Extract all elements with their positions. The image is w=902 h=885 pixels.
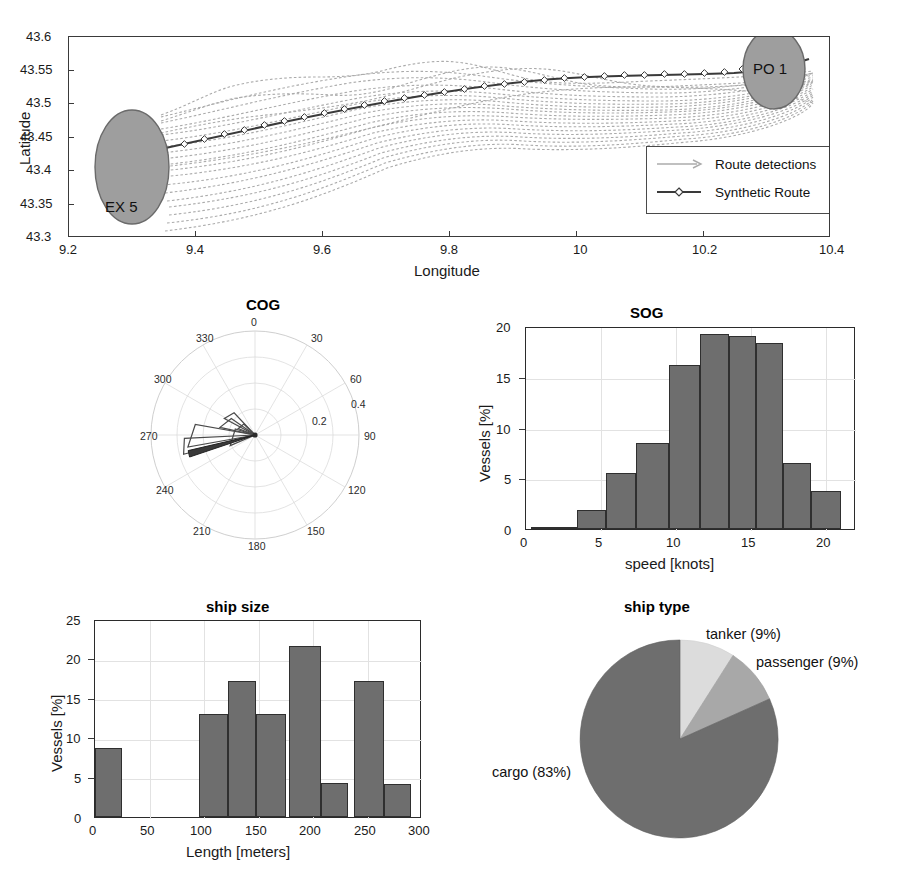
map-ytickmark bbox=[68, 103, 74, 104]
map-ytick-43.3: 43.3 bbox=[26, 229, 51, 244]
size-xtick-200: 200 bbox=[299, 823, 321, 838]
map-ytick-43.6: 43.6 bbox=[26, 29, 51, 44]
sog-ytick-15: 15 bbox=[496, 371, 510, 386]
sog-bar bbox=[606, 473, 636, 529]
cog-angle-tick-30: 30 bbox=[311, 332, 323, 344]
size-ytick-15: 15 bbox=[66, 692, 80, 707]
sog-ytickmark bbox=[519, 429, 525, 430]
cog-angle-tick-180: 180 bbox=[248, 540, 266, 552]
sog-xtick-10: 10 bbox=[666, 535, 680, 550]
map-yaxis-title: Latitude bbox=[16, 112, 33, 165]
map-ytickmark bbox=[68, 70, 74, 71]
size-gridline bbox=[150, 621, 151, 819]
cog-angle-tick-60: 60 bbox=[350, 373, 362, 385]
size-bar bbox=[289, 646, 321, 817]
map-ytick-43.35: 43.35 bbox=[20, 196, 53, 211]
map-xtick-9.2: 9.2 bbox=[59, 242, 77, 257]
cog-angle-tick-210: 210 bbox=[193, 525, 211, 537]
zone-label-ex5: EX 5 bbox=[105, 198, 138, 215]
size-xaxis-title: Length [meters] bbox=[186, 843, 290, 860]
sog-bar bbox=[636, 443, 669, 529]
map-ytick-43.5: 43.5 bbox=[26, 95, 51, 110]
sog-xtick-20: 20 bbox=[816, 535, 830, 550]
cog-radial-tick-0.2: 0.2 bbox=[312, 415, 327, 427]
map-xtick-10.4: 10.4 bbox=[819, 242, 844, 257]
cog-angle-tick-330: 330 bbox=[196, 332, 214, 344]
size-yaxis-title: Vessels [%] bbox=[48, 694, 65, 772]
size-xtick-100: 100 bbox=[190, 823, 212, 838]
zone-label-po1: PO 1 bbox=[753, 60, 787, 77]
size-bar bbox=[354, 681, 383, 817]
map-xtick-10.2: 10.2 bbox=[692, 242, 717, 257]
sog-bar bbox=[700, 334, 729, 529]
cog-rose-petals bbox=[184, 413, 255, 455]
pie-label-passenger: passenger (9%) bbox=[756, 654, 858, 670]
map-ytick-43.55: 43.55 bbox=[20, 62, 53, 77]
cog-angle-tick-90: 90 bbox=[364, 430, 376, 442]
sog-ytickmark bbox=[519, 378, 525, 379]
sog-xtick-15: 15 bbox=[741, 535, 755, 550]
cog-polar-panel: COG 0 30 bbox=[140, 292, 450, 582]
sog-histogram-panel: SOG 20 15 10 5 0 0 5 10 15 20 speed [kno… bbox=[440, 292, 870, 582]
cog-rose-dominant-petal bbox=[188, 435, 255, 457]
ship-type-pie-svg bbox=[460, 612, 902, 882]
map-xtickmark bbox=[322, 231, 323, 237]
sog-axes bbox=[525, 327, 855, 530]
synthetic-route-swatch-icon bbox=[655, 183, 707, 201]
cog-polar-origin bbox=[252, 432, 257, 437]
map-xtick-9.8: 9.8 bbox=[440, 242, 458, 257]
sog-bar bbox=[756, 343, 783, 529]
cog-angle-tick-270: 270 bbox=[140, 430, 158, 442]
cog-radial-tick-0.4: 0.4 bbox=[351, 398, 366, 410]
map-xtick-9.4: 9.4 bbox=[186, 242, 204, 257]
sog-ytick-5: 5 bbox=[504, 472, 511, 487]
map-xtickmark bbox=[703, 231, 704, 237]
sog-bar bbox=[531, 527, 578, 529]
sog-bar bbox=[669, 365, 701, 529]
cog-angle-tick-120: 120 bbox=[348, 484, 366, 496]
pie-label-tanker: tanker (9%) bbox=[706, 626, 781, 642]
size-xtick-300: 300 bbox=[408, 823, 430, 838]
legend-label-synthetic-route: Synthetic Route bbox=[715, 185, 810, 200]
cog-polar-svg bbox=[140, 306, 450, 586]
size-axes bbox=[94, 620, 421, 818]
sog-ytick-0: 0 bbox=[504, 523, 511, 538]
map-xtickmark bbox=[449, 231, 450, 237]
map-xaxis-title: Longitude bbox=[414, 262, 480, 279]
legend-label-route-detections: Route detections bbox=[715, 157, 816, 172]
map-ytickmark bbox=[68, 137, 74, 138]
size-bar bbox=[95, 748, 122, 817]
size-bar bbox=[256, 714, 285, 817]
size-ytick-5: 5 bbox=[74, 771, 81, 786]
size-bar bbox=[199, 714, 228, 817]
cog-angle-tick-0: 0 bbox=[251, 316, 257, 328]
size-ytickmark bbox=[88, 659, 94, 660]
sog-ytickmark bbox=[519, 479, 525, 480]
sog-bar bbox=[811, 491, 841, 529]
size-bar bbox=[321, 783, 348, 817]
ship-size-histogram-panel: ship size 25 20 15 10 5 0 0 50 100 150 2… bbox=[20, 592, 460, 885]
legend-item-synthetic-route: Synthetic Route bbox=[655, 183, 707, 207]
map-xtickmark bbox=[576, 231, 577, 237]
ship-type-pie-panel: ship type cargo (83%) tanker (9%) passen… bbox=[460, 592, 902, 885]
route-map-panel: EX 5 PO 1 Route detections Synthetic Rou… bbox=[0, 0, 902, 290]
route-map-legend: Route detections Synthetic Route bbox=[646, 146, 830, 214]
route-detections-swatch-icon bbox=[655, 155, 707, 173]
size-xtick-0: 0 bbox=[89, 823, 96, 838]
sog-bar bbox=[783, 463, 812, 529]
map-ytickmark bbox=[68, 170, 74, 171]
sog-xaxis-title: speed [knots] bbox=[625, 555, 714, 572]
size-ytickmark bbox=[88, 738, 94, 739]
size-xtick-50: 50 bbox=[140, 823, 154, 838]
sog-ytick-20: 20 bbox=[496, 320, 510, 335]
size-ytick-20: 20 bbox=[66, 652, 80, 667]
map-xtick-9.6: 9.6 bbox=[313, 242, 331, 257]
legend-item-route-detections: Route detections bbox=[655, 155, 707, 179]
size-ytickmark bbox=[88, 778, 94, 779]
sog-bar bbox=[577, 510, 606, 529]
map-ytickmark bbox=[68, 204, 74, 205]
cog-angle-tick-150: 150 bbox=[307, 525, 325, 537]
size-bar bbox=[384, 784, 411, 817]
map-xtickmark bbox=[195, 231, 196, 237]
sog-gridline bbox=[601, 328, 602, 531]
